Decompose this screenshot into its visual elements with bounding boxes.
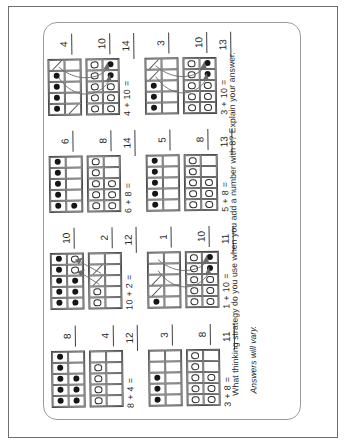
filled-dot-icon [57,365,63,371]
filled-dot-icon [154,386,160,392]
open-dot-icon [95,397,103,405]
frame2-count-blank: 8 [195,324,211,345]
open-dot-icon [191,352,199,360]
filled-dot-icon [71,203,77,209]
ten-frame-cell [201,155,217,166]
ten-frame-cell [104,156,120,167]
answer-blank: 14 [119,130,135,156]
open-dot-icon [108,202,116,210]
open-dot-icon [208,374,216,382]
ten-frame-cell [88,189,104,200]
open-dot-icon [192,396,200,404]
problem-unit-6-plus-8: 686 + 8 =14 [48,126,141,221]
ten-frame-cell [149,362,165,373]
problem-unit-8-plus-4: 848 + 4 =12 [51,321,144,416]
filled-dot-icon [55,192,61,198]
filled-dot-icon [154,375,160,381]
ten-frame-cell [66,190,82,201]
ten-frame-frame1-8-plus-4 [51,351,86,408]
ten-frame-frame2-6-plus-8 [87,155,122,212]
filled-dot-icon [55,170,61,176]
filled-dot-icon [74,398,80,404]
ten-frame-cell [150,395,166,406]
filled-dot-icon [73,376,79,382]
ten-frame-cell [90,351,106,362]
ten-frame-cell [104,167,120,178]
open-dot-icon [92,169,100,177]
move-two-dots-arrows-icon [144,28,237,123]
filled-dot-icon [155,397,161,403]
ten-frame-cell [201,177,217,188]
open-dot-icon [92,180,100,188]
open-dot-icon [92,158,100,166]
ten-frame-cell [52,374,68,385]
answer-key-note: Answers will vary. [246,193,258,393]
ten-frame-cell [90,373,106,384]
ten-frame-frame2-5-plus-8 [184,154,219,211]
open-dot-icon [189,201,197,209]
ten-frame-cell [203,372,219,383]
filled-dot-icon [55,181,61,187]
ten-frame-cell [149,351,165,362]
equation-text: 8 + 4 = [125,378,135,408]
worksheet-page: 848 + 4 =1210210 + 2 =12686 + 8 =144104 … [0,0,349,445]
ten-frame-cell [50,168,66,179]
problem-unit-5-plus-8: 585 + 8 =13 [145,125,238,220]
ten-frame-cell [147,156,163,167]
ten-frame-cell [187,350,203,361]
ten-frame-cell [187,361,203,372]
ten-frame-cell [165,372,181,383]
ten-frame-cell [50,201,66,212]
frame1-count-blank: 5 [154,129,170,150]
ten-frame-cell [88,156,104,167]
ten-frame-cell [188,394,204,405]
ten-frame-cell [106,384,122,395]
ten-frame-cell [185,177,201,188]
answer-blank: 12 [122,325,138,351]
ten-frame-cell [106,362,122,373]
ten-frame-cell [187,383,203,394]
open-dot-icon [189,157,197,165]
ten-frame-cell [66,201,82,212]
ten-frame-cell [88,200,104,211]
ten-frame-cell [165,361,181,372]
filled-dot-icon [152,169,158,175]
ten-frame-cell [68,352,84,363]
ten-frame-cell [203,350,219,361]
open-dot-icon [108,180,116,188]
open-dot-icon [208,396,216,404]
ten-frame-cell [106,373,122,384]
ten-frame-cell [201,188,217,199]
ten-frame-cell [185,188,201,199]
ten-frame-cell [166,394,182,405]
frame1-count-blank: 3 [157,324,173,345]
ten-frame-frame1-5-plus-8 [146,154,181,211]
ten-frame-cell [163,188,179,199]
open-dot-icon [192,385,200,393]
ten-frame-cell [107,395,123,406]
ten-frame-cell [147,178,163,189]
ten-frame-cell [149,373,165,384]
ten-frame-cell [66,179,82,190]
ten-frame-cell [165,383,181,394]
open-dot-icon [189,168,197,176]
ten-frame-cell [163,199,179,210]
move-two-dots-arrows-icon [49,223,142,318]
open-dot-icon [208,385,216,393]
ten-frame-cell [66,157,82,168]
ten-frame-cell [149,384,165,395]
open-dot-icon [92,191,100,199]
filled-dot-icon [58,398,64,404]
ten-frame-cell [52,363,68,374]
ten-frame-cell [163,155,179,166]
ten-frame-cell [52,385,68,396]
ten-frame-cell [185,199,201,210]
filled-dot-icon [152,180,158,186]
ten-frame-cell [165,350,181,361]
open-dot-icon [108,191,116,199]
ten-frame-frame2-3-plus-8 [186,349,221,406]
frame2-count-blank: 8 [192,129,208,150]
ten-frame-cell [187,372,203,383]
ten-frame-cell [203,383,219,394]
ten-frame-cell [53,396,69,407]
